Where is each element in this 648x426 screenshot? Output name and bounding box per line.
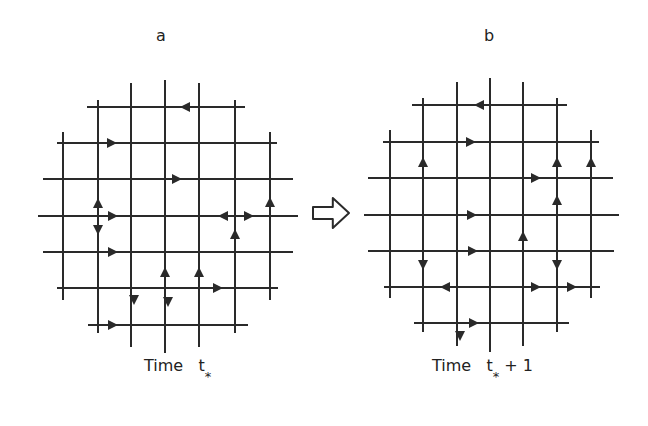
arrow-up-icon [93,198,103,208]
arrow-right-icon [244,211,254,221]
arrow-up-icon [418,157,428,167]
arrow-up-icon [586,157,596,167]
arrow-right-icon [467,210,477,220]
hollow-right-arrow-icon [313,198,349,228]
arrow-right-icon [466,137,476,147]
arrow-right-icon [108,320,118,330]
arrow-up-icon [230,229,240,239]
arrow-right-icon [567,282,577,292]
arrow-up-icon [265,197,275,207]
arrow-right-icon [469,318,479,328]
arrow-up-icon [552,157,562,167]
caption-time-word: Time [144,356,183,375]
caption-time-word: Time [432,356,471,375]
arrow-up-icon [518,231,528,241]
arrow-left-icon [474,100,484,110]
arrow-left-icon [180,102,190,112]
arrow-up-icon [552,195,562,205]
panel-label-a: a [156,26,166,45]
arrow-up-icon [194,267,204,277]
arrow-down-icon [418,260,428,270]
caption-t-symbol: t [486,356,492,375]
arrow-right-icon [213,283,223,293]
arrow-right-icon [108,247,118,257]
arrow-right-icon [107,138,117,148]
arrow-right-icon [468,246,478,256]
caption-plus-one: + 1 [504,356,533,375]
arrow-right-icon [531,282,541,292]
arrow-right-icon [108,211,118,221]
caption-t-symbol: t [198,356,204,375]
arrow-left-icon [218,211,228,221]
arrow-down-icon [552,260,562,270]
arrow-left-icon [440,282,450,292]
arrow-down-icon [93,225,103,235]
diagram-canvas [0,0,648,426]
panel-label-b: b [484,26,494,45]
arrow-up-icon [160,267,170,277]
arrow-right-icon [531,173,541,183]
caption-star-subscript: * [205,369,212,384]
caption-time-t-plus-1: Time t* + 1 [432,356,533,375]
caption-time-t: Time t* [144,356,211,375]
arrow-right-icon [172,174,182,184]
caption-star-subscript: * [493,369,500,384]
